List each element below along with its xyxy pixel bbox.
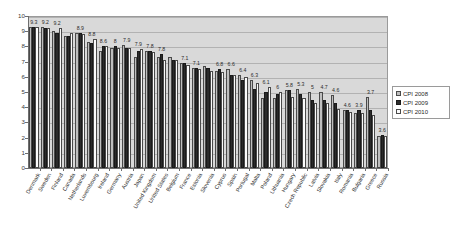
bar[interactable] <box>117 48 120 168</box>
bar[interactable] <box>349 112 352 168</box>
bar-group[interactable] <box>157 16 167 168</box>
bar-group[interactable] <box>168 16 178 168</box>
bar-group[interactable] <box>377 16 387 168</box>
x-tick-mark <box>51 168 52 171</box>
x-tick-mark <box>283 168 284 171</box>
bar[interactable] <box>47 28 50 168</box>
bar-group[interactable] <box>52 16 62 168</box>
bar[interactable] <box>93 39 96 168</box>
legend-item[interactable]: CPI 2008 <box>395 89 447 98</box>
bar[interactable] <box>256 83 259 168</box>
legend-swatch-cpi-2009 <box>396 100 401 105</box>
bar-group[interactable] <box>308 16 318 168</box>
x-tick-mark <box>40 168 41 171</box>
x-tick-mark <box>63 168 64 171</box>
bar[interactable] <box>186 65 189 168</box>
bar-group[interactable] <box>203 16 213 168</box>
x-tick-mark <box>260 168 261 171</box>
legend-swatch-cpi-2008 <box>396 91 401 96</box>
bar-group[interactable] <box>238 16 248 168</box>
bar[interactable] <box>221 72 224 168</box>
bar-group[interactable] <box>226 16 236 168</box>
bar-value-label: 6.6 <box>223 62 239 67</box>
bar[interactable] <box>361 113 364 168</box>
bar-group[interactable] <box>343 16 353 168</box>
bar-value-label: 3.9 <box>351 103 367 108</box>
bar-group[interactable] <box>75 16 85 168</box>
bar[interactable] <box>337 109 340 168</box>
x-tick-mark <box>376 168 377 171</box>
bar[interactable] <box>152 52 155 168</box>
y-tick-label: 1 <box>3 150 25 156</box>
x-tick-mark <box>144 168 145 171</box>
legend-label-cpi-2008: CPI 2008 <box>403 91 428 97</box>
bar[interactable] <box>105 46 108 168</box>
bar[interactable] <box>372 115 375 168</box>
bar[interactable] <box>59 28 62 168</box>
legend-label-cpi-2009: CPI 2009 <box>403 100 428 106</box>
bar[interactable] <box>163 60 166 168</box>
y-tick-label: 4 <box>3 104 25 110</box>
bar-group[interactable] <box>285 16 295 168</box>
x-tick-mark <box>365 168 366 171</box>
bar[interactable] <box>314 103 317 168</box>
x-tick-mark <box>225 168 226 171</box>
bar[interactable] <box>279 92 282 168</box>
x-tick-mark <box>191 168 192 171</box>
bar[interactable] <box>128 48 131 168</box>
bar[interactable] <box>198 69 201 168</box>
bar[interactable] <box>210 71 213 168</box>
bar[interactable] <box>291 97 294 168</box>
x-tick-mark <box>330 168 331 171</box>
bar-group[interactable] <box>29 16 39 168</box>
legend-item[interactable]: CPI 2009 <box>395 98 447 107</box>
x-tick-mark <box>156 168 157 171</box>
bar[interactable] <box>384 136 387 168</box>
chart-legend: CPI 2008 CPI 2009 CPI 2010 <box>392 86 450 119</box>
x-tick-mark <box>179 168 180 171</box>
x-tick-mark <box>237 168 238 171</box>
bar[interactable] <box>326 103 329 168</box>
bar-value-label: 3.6 <box>374 128 390 133</box>
legend-label-cpi-2010: CPI 2010 <box>403 109 428 115</box>
x-tick-mark <box>307 168 308 171</box>
bar-group[interactable] <box>64 16 74 168</box>
y-tick-label: 3 <box>3 119 25 125</box>
bar[interactable] <box>268 87 271 168</box>
bar[interactable] <box>233 75 236 168</box>
bar[interactable] <box>244 77 247 168</box>
x-tick-mark <box>109 168 110 171</box>
bar-group[interactable] <box>41 16 51 168</box>
x-tick-mark <box>121 168 122 171</box>
bar[interactable] <box>70 33 73 168</box>
bar-group[interactable] <box>215 16 225 168</box>
x-tick-mark <box>98 168 99 171</box>
y-tick-label: 0 <box>3 165 25 171</box>
x-tick-mark <box>214 168 215 171</box>
x-tick-mark <box>295 168 296 171</box>
bar[interactable] <box>82 34 85 168</box>
x-tick-mark <box>388 168 389 171</box>
legend-swatch-cpi-2010 <box>396 109 401 114</box>
bar-group[interactable] <box>192 16 202 168</box>
bar-group[interactable] <box>273 16 283 168</box>
bar-group[interactable] <box>145 16 155 168</box>
bar-group[interactable] <box>134 16 144 168</box>
bar[interactable] <box>140 49 143 168</box>
legend-item[interactable]: CPI 2010 <box>395 107 447 116</box>
bar[interactable] <box>35 27 38 168</box>
bar-group[interactable] <box>250 16 260 168</box>
bar-group[interactable] <box>261 16 271 168</box>
bar[interactable] <box>175 60 178 168</box>
bar-value-label: 9.2 <box>49 21 65 26</box>
x-tick-mark <box>167 168 168 171</box>
bar-group[interactable] <box>296 16 306 168</box>
bar-value-label: 4.6 <box>328 88 344 93</box>
x-tick-mark <box>86 168 87 171</box>
bar-value-label: 7.8 <box>154 47 170 52</box>
y-tick-label: 5 <box>3 89 25 95</box>
x-tick-mark <box>202 168 203 171</box>
bar-value-label: 6.3 <box>247 73 263 78</box>
bar[interactable] <box>302 98 305 168</box>
bar-group[interactable] <box>180 16 190 168</box>
